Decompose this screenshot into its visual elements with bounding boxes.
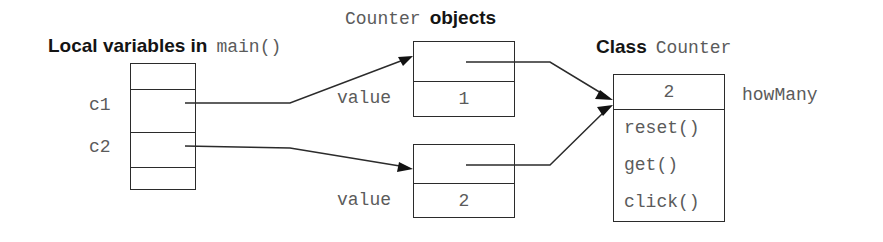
counter-object-2-value-label: value bbox=[337, 191, 391, 209]
locals-title-code: main() bbox=[216, 38, 281, 56]
class-static-field-cell: 2 bbox=[614, 75, 724, 109]
counter-object-1-value-cell: 1 bbox=[414, 81, 514, 116]
counter-object-1-value-label: value bbox=[337, 89, 391, 107]
locals-label-c1: c1 bbox=[89, 96, 111, 114]
counter-object-1: 1 bbox=[413, 41, 515, 117]
class-counter-box: 2 reset() get() click() bbox=[613, 74, 725, 222]
objects-title-plain: objects bbox=[430, 8, 497, 27]
objects-title: Counter objects bbox=[345, 8, 496, 28]
counter-object-2-value-cell: 2 bbox=[414, 183, 514, 217]
locals-row-c2 bbox=[131, 132, 195, 167]
locals-title-plain: Local variables in bbox=[48, 36, 207, 55]
locals-row-3 bbox=[131, 167, 195, 188]
arrow-c2-to-object2 bbox=[185, 146, 413, 172]
counter-object-2-reference-cell bbox=[414, 145, 514, 183]
class-static-field-label: howMany bbox=[742, 86, 818, 104]
counter-object-2: 2 bbox=[413, 144, 515, 218]
class-static-field-value: 2 bbox=[664, 83, 675, 101]
locals-row-c1 bbox=[131, 89, 195, 132]
locals-row-0 bbox=[131, 64, 195, 89]
class-method-get-label: get() bbox=[624, 156, 678, 174]
locals-title: Local variables in main() bbox=[48, 36, 281, 56]
class-title-code: Counter bbox=[656, 39, 732, 57]
class-method-reset: reset() bbox=[614, 109, 724, 146]
class-method-reset-label: reset() bbox=[624, 119, 700, 137]
class-method-click-label: click() bbox=[624, 193, 700, 211]
class-method-click: click() bbox=[614, 183, 724, 220]
counter-object-2-value: 2 bbox=[459, 192, 470, 210]
class-title-plain: Class bbox=[596, 37, 647, 56]
object-reference-diagram: Local variables in main() Counter object… bbox=[0, 0, 883, 242]
counter-object-1-reference-cell bbox=[414, 42, 514, 81]
locals-label-c2: c2 bbox=[89, 138, 111, 156]
class-method-get: get() bbox=[614, 146, 724, 183]
class-title: Class Counter bbox=[596, 37, 731, 57]
local-variables-box bbox=[130, 63, 196, 190]
objects-title-code: Counter bbox=[345, 10, 421, 28]
counter-object-1-value: 1 bbox=[459, 90, 470, 108]
